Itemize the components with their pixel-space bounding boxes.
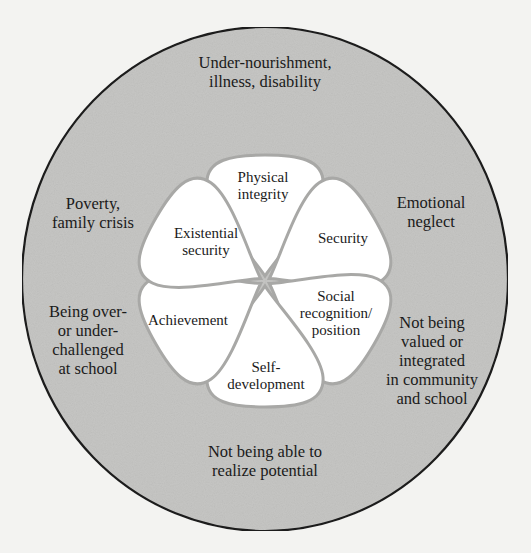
threat-over-under-challenged: Being over- or under- challenged at scho… [49, 302, 127, 378]
need-security: Security [318, 230, 368, 247]
threat-poverty: Poverty, family crisis [52, 194, 134, 232]
need-existential-security: Existential security [174, 225, 238, 259]
needs-threats-diagram: Physical integrity Security Social recog… [0, 0, 531, 553]
threat-not-realize-potential: Not being able to realize potential [208, 442, 322, 480]
threat-emotional-neglect: Emotional neglect [397, 193, 466, 231]
need-physical-integrity: Physical integrity [238, 169, 289, 203]
threat-under-nourishment: Under-nourishment, illness, disability [198, 53, 331, 91]
threat-not-valued: Not being valued or integrated in commun… [386, 313, 478, 408]
need-social-recognition: Social recognition/ position [300, 288, 372, 339]
need-self-development: Self- development [227, 359, 304, 393]
need-achievement: Achievement [148, 312, 228, 329]
